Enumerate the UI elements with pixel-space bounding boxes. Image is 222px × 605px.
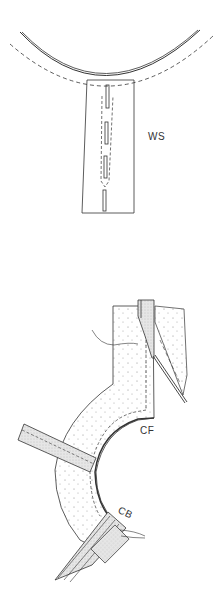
diagram-canvas [0, 0, 222, 605]
seam-dashed-line [10, 36, 213, 86]
label-cf: CF [140, 425, 154, 436]
bottom-figure-facing [18, 300, 187, 582]
label-ws: WS [148, 131, 165, 142]
slit-segment-1 [106, 85, 109, 108]
neckline-outer-line [20, 30, 200, 76]
slit-segment-3 [104, 156, 107, 178]
slit-segment-2 [105, 122, 108, 144]
placket-rectangle [82, 80, 134, 213]
slit-segment-4 [103, 190, 106, 211]
top-figure-neckline-placket [10, 30, 213, 213]
